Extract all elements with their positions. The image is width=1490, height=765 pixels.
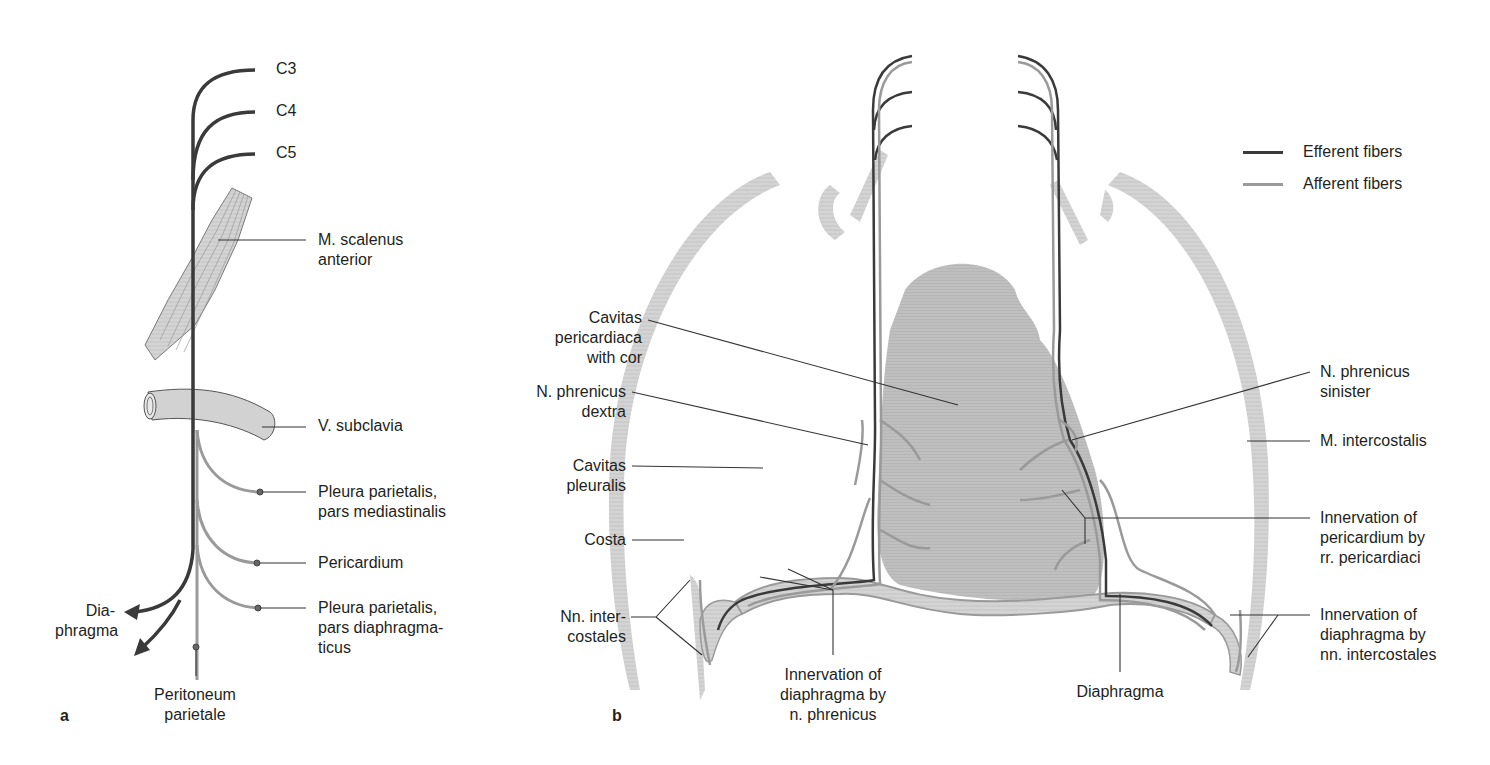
label-cavitas-pleuralis: Cavitas pleuralis [520, 456, 626, 496]
label-line: Innervation of [1320, 508, 1425, 528]
label-line: dextra [500, 402, 626, 422]
label-line: Innervation of [763, 665, 903, 685]
label-line: diaphragma by [763, 685, 903, 705]
label-line: diaphragma by [1320, 625, 1437, 645]
label-m-intercostalis: M. intercostalis [1320, 431, 1427, 451]
label-pleura-mediastinalis: Pleura parietalis, pars mediastinalis [318, 482, 446, 522]
label-costa: Costa [540, 530, 626, 550]
label-line: rr. pericardiaci [1320, 548, 1425, 568]
arrowhead-icon [124, 604, 140, 620]
efferent-line-swatch-icon [1243, 151, 1283, 154]
phrenic-nerve-afferent [197, 430, 258, 680]
rib-cage-right [1050, 172, 1269, 690]
label-line: N. phrenicus [500, 382, 626, 402]
legend-item-efferent: Efferent fibers [1243, 143, 1402, 161]
label-line: parietale [140, 705, 250, 725]
subclavian-vein [144, 389, 275, 440]
label-innervation-intercostales: Innervation of diaphragma by nn. interco… [1320, 605, 1437, 665]
label-peritoneum: Peritoneum parietale [140, 685, 250, 725]
label-line: pleuralis [520, 476, 626, 496]
diagram-artwork [0, 0, 1490, 765]
label-line: pars mediastinalis [318, 502, 446, 522]
label-line: Pleura parietalis, [318, 482, 446, 502]
label-line: M. scalenus [318, 230, 403, 250]
legend-item-afferent: Afferent fibers [1243, 175, 1402, 193]
label-line: ticus [318, 638, 443, 658]
label-pleura-diaphragmaticus: Pleura parietalis, pars diaphragma- ticu… [318, 598, 443, 658]
label-line: pars diaphragma- [318, 618, 443, 638]
label-line: anterior [318, 250, 403, 270]
label-line: pericardiaca [520, 328, 642, 348]
panel-label-a: a [60, 707, 69, 725]
label-n-phrenicus-dextra: N. phrenicus dextra [500, 382, 626, 422]
scalenus-muscle [145, 188, 252, 360]
leader-lines-a [196, 240, 306, 676]
label-c4: C4 [276, 101, 296, 121]
label-n-phrenicus-sinister: N. phrenicus sinister [1320, 362, 1410, 402]
panel-label-b: b [612, 707, 622, 725]
label-innervation-phrenicus: Innervation of diaphragma by n. phrenicu… [763, 665, 903, 725]
label-line: pericardium by [1320, 528, 1425, 548]
label-innervation-pericardium: Innervation of pericardium by rr. perica… [1320, 508, 1425, 568]
label-line: phragma [55, 621, 115, 641]
panel-b-artwork [609, 56, 1310, 700]
label-line: n. phrenicus [763, 705, 903, 725]
legend-label: Afferent fibers [1303, 175, 1402, 193]
label-c3: C3 [276, 59, 296, 79]
label-line: N. phrenicus [1320, 362, 1410, 382]
label-cavitas-pericardiaca: Cavitas pericardiaca with cor [520, 308, 642, 368]
phrenic-nerve-efferent [135, 70, 255, 648]
label-line: Innervation of [1320, 605, 1437, 625]
label-line: sinister [1320, 382, 1410, 402]
label-line: costales [520, 627, 626, 647]
legend-label: Efferent fibers [1303, 143, 1402, 161]
label-c5: C5 [276, 143, 296, 163]
label-nn-intercostales: Nn. inter- costales [520, 607, 626, 647]
label-m-scalenus: M. scalenus anterior [318, 230, 403, 270]
label-diaphragma-b: Diaphragma [1060, 682, 1180, 702]
label-line: Peritoneum [140, 685, 250, 705]
afferent-line-swatch-icon [1243, 183, 1283, 186]
label-line: nn. intercostales [1320, 645, 1437, 665]
label-line: Dia- [55, 601, 115, 621]
label-pericardium: Pericardium [318, 553, 403, 573]
label-line: with cor [520, 348, 642, 368]
label-line: Pleura parietalis, [318, 598, 443, 618]
label-line: Cavitas [520, 308, 642, 328]
label-v-subclavia: V. subclavia [318, 416, 403, 436]
label-line: Cavitas [520, 456, 626, 476]
label-line: Nn. inter- [520, 607, 626, 627]
label-diaphragma-a: Dia- phragma [55, 601, 115, 641]
